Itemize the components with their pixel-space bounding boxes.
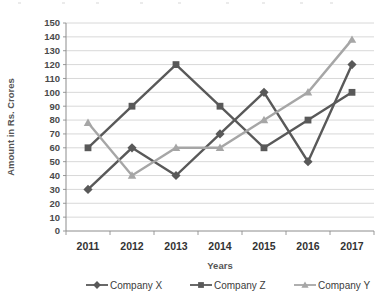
legend-label: Company Y bbox=[318, 280, 370, 291]
legend-label: Company X bbox=[110, 280, 163, 291]
chart-legend: Company XCompany ZCompany Y bbox=[86, 280, 370, 291]
legend-item-company-z[interactable]: Company Z bbox=[190, 280, 266, 291]
square-marker-icon bbox=[173, 61, 180, 68]
x-tick-label: 2011 bbox=[77, 240, 100, 252]
chart-canvas: 0102030405060708090100110120130140150 20… bbox=[0, 0, 390, 304]
x-tick-label: 2017 bbox=[340, 240, 364, 252]
y-tick-label: 0 bbox=[55, 225, 60, 236]
y-tick-label: 40 bbox=[49, 170, 60, 181]
y-tick-label: 150 bbox=[44, 17, 60, 28]
square-marker-icon bbox=[198, 282, 204, 288]
square-marker-icon bbox=[129, 103, 136, 110]
diamond-marker-icon bbox=[93, 281, 101, 289]
square-marker-icon bbox=[85, 144, 92, 151]
x-tick-label: 2012 bbox=[120, 240, 144, 252]
x-tick-label: 2013 bbox=[164, 240, 188, 252]
y-tick-label: 130 bbox=[44, 45, 60, 56]
x-axis-ticks: 2011201220132014201520162017 bbox=[66, 231, 374, 252]
y-tick-label: 10 bbox=[49, 212, 60, 223]
line-chart: 0102030405060708090100110120130140150 20… bbox=[0, 0, 390, 304]
legend-item-company-y[interactable]: Company Y bbox=[294, 280, 370, 291]
y-axis-ticks: 0102030405060708090100110120130140150 bbox=[44, 17, 66, 236]
data-series-group bbox=[83, 35, 356, 194]
series-company-x bbox=[83, 60, 356, 194]
y-tick-label: 110 bbox=[45, 73, 60, 84]
y-tick-label: 20 bbox=[49, 198, 60, 209]
square-marker-icon bbox=[349, 89, 356, 96]
square-marker-icon bbox=[217, 103, 224, 110]
x-tick-label: 2014 bbox=[208, 240, 232, 252]
y-tick-label: 70 bbox=[49, 128, 60, 139]
y-axis-title: Amount in Rs. Crores bbox=[5, 78, 16, 176]
diamond-marker-icon bbox=[347, 60, 356, 69]
square-marker-icon bbox=[261, 144, 268, 151]
y-tick-label: 50 bbox=[49, 156, 60, 167]
x-tick-label: 2016 bbox=[296, 240, 320, 252]
y-tick-label: 80 bbox=[49, 114, 60, 125]
y-tick-label: 30 bbox=[49, 184, 60, 195]
y-tick-label: 120 bbox=[44, 59, 60, 70]
legend-item-company-x[interactable]: Company X bbox=[86, 280, 163, 291]
y-tick-label: 140 bbox=[44, 31, 60, 42]
legend-label: Company Z bbox=[214, 280, 266, 291]
x-axis-title: Years bbox=[207, 260, 232, 271]
y-tick-label: 90 bbox=[49, 101, 60, 112]
y-tick-label: 100 bbox=[44, 87, 60, 98]
x-tick-label: 2015 bbox=[252, 240, 276, 252]
y-tick-label: 60 bbox=[49, 142, 60, 153]
square-marker-icon bbox=[305, 117, 312, 124]
